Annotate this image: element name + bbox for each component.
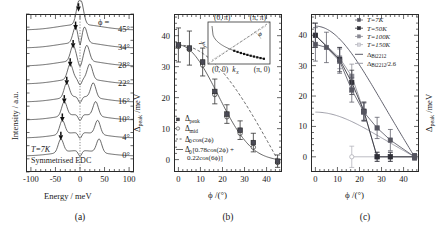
panel-a-phi-header: ϕ = <box>98 17 109 27</box>
svg-text:10: 10 <box>162 124 171 134</box>
svg-text:30: 30 <box>162 62 171 72</box>
panel-b-y-axis-label: Δpeak /meV <box>132 94 143 132</box>
svg-text:40: 40 <box>262 174 271 184</box>
svg-text:40: 40 <box>299 30 308 40</box>
svg-text:20: 20 <box>355 174 364 184</box>
svg-text:100: 100 <box>123 174 136 184</box>
svg-text:-100: -100 <box>23 174 39 184</box>
svg-text:10: 10 <box>196 174 205 184</box>
svg-text:30: 30 <box>299 61 308 71</box>
svg-text:20: 20 <box>162 93 171 103</box>
panel-c-tag: (c) <box>345 212 385 222</box>
svg-text:10: 10 <box>299 121 308 131</box>
panel-b-tag: (b) <box>208 212 248 222</box>
svg-text:-50: -50 <box>50 174 61 184</box>
svg-text:0: 0 <box>78 174 82 184</box>
svg-text:10: 10 <box>333 174 342 184</box>
figure-root: Intensity / a.u. -100-5005010045°34°28°2… <box>0 0 442 235</box>
svg-text:20: 20 <box>218 174 227 184</box>
panel-b-x-axis-label: ϕ /(°) <box>208 190 227 200</box>
svg-text:30: 30 <box>240 174 249 184</box>
svg-text:40: 40 <box>162 31 171 41</box>
panel-a: Intensity / a.u. -100-5005010045°34°28°2… <box>0 0 148 235</box>
panel-b: Δpeak /meV 010203040010203040ΔpeakΔmidΔ0… <box>148 0 295 235</box>
panel-c-x-axis-label: ϕ /(°) <box>345 190 364 200</box>
svg-text:0: 0 <box>176 174 180 184</box>
svg-text:50: 50 <box>100 174 109 184</box>
panel-a-tag: (a) <box>60 212 100 222</box>
svg-text:30: 30 <box>377 174 386 184</box>
svg-text:0: 0 <box>166 155 170 165</box>
panel-a-temperature-note: T=7K <box>31 145 50 154</box>
svg-text:20: 20 <box>299 91 308 101</box>
svg-text:0: 0 <box>313 174 317 184</box>
svg-text:40: 40 <box>399 174 408 184</box>
panel-a-y-axis-label: Intensity / a.u. <box>10 91 20 140</box>
panel-a-edc-note: Symmetrised EDC <box>31 156 91 165</box>
panel-b-plot-area <box>174 14 282 172</box>
panel-c: Δpeak /meV 010203040010203040T=7KT=50KT=… <box>295 0 442 235</box>
panel-c-y-axis-label: Δpeak /meV <box>424 94 435 132</box>
panel-a-x-axis-label: Energy / meV <box>44 191 92 201</box>
svg-text:0: 0 <box>303 152 307 162</box>
panel-c-plot-area <box>311 14 419 172</box>
